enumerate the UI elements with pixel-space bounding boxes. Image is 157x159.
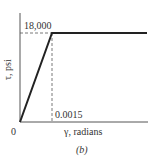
origin-label: 0 — [11, 127, 16, 137]
stress-strain-curve — [20, 33, 147, 122]
x-tick-label: 0.0015 — [55, 110, 83, 120]
y-axis-label: τ, psi — [3, 59, 13, 80]
figure-caption: (b) — [76, 145, 88, 155]
y-tick-label: 18,000 — [24, 21, 52, 31]
x-axis-label: γ, radians — [64, 127, 102, 137]
